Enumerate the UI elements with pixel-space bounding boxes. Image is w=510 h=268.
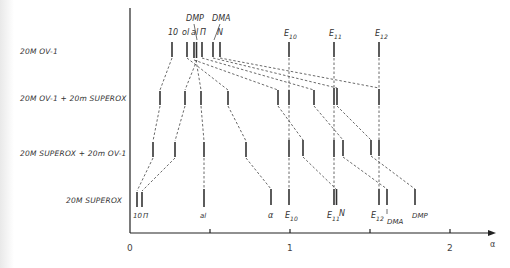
row3-peaks [153,140,379,157]
label-top-e12: E12 [375,29,388,40]
label-top-dmp: DMP [186,14,204,23]
label-top-e11: E11 [329,29,342,40]
label-bottom-dmp: DMP [412,212,428,220]
label-bottom-n: N [339,209,345,218]
top-peak-labels: 10 ol al Π N DMP DMA E10 E11 E12 [168,14,388,40]
row-label-ov1: 20M OV-1 [20,47,58,56]
connectors-row2-row3 [153,106,379,141]
connectors-row3-row4 [137,156,415,191]
label-top-dma: DMA [212,14,231,23]
label-bottom-e12: E12 [371,211,384,222]
row2-peaks [160,88,379,105]
x-tick-label-0: 0 [127,243,133,253]
x-axis-label: α [490,240,495,249]
label-top-10: 10 [168,28,178,37]
connectors-row1-row2 [160,58,379,90]
row-label-superox: 20M SUPEROX [66,196,123,205]
label-bottom-e10: E10 [285,211,298,222]
x-axis-arrow-icon [488,230,496,236]
bottom-peak-labels: 10 Π al α E10 E11 N E12 DMA DMP [133,209,428,226]
label-bottom-10: 10 [133,212,142,220]
label-top-ol: ol [182,28,190,37]
label-bottom-alpha: α [268,211,274,220]
x-tick-label-1: 1 [287,243,293,253]
row4-peaks [137,189,415,207]
row1-peaks [172,42,379,58]
row-label-ov1-plus-superox: 20M OV-1 + 20m SUPEROX [20,94,127,103]
label-bottom-dma: DMA [387,218,403,226]
retention-shift-diagram: 0 1 2 α 20M OV-1 20M OV-1 + 20m SUPEROX … [0,0,510,268]
label-top-e10: E10 [284,29,297,40]
label-bottom-pi: Π [143,212,149,220]
row-label-superox-plus-ov1: 20M SUPEROX + 20m OV-1 [20,149,127,158]
x-tick-label-2: 2 [447,243,453,253]
label-bottom-e11: E11 [327,211,340,222]
label-top-pi: Π [200,28,206,37]
label-bottom-al: al [200,212,206,220]
